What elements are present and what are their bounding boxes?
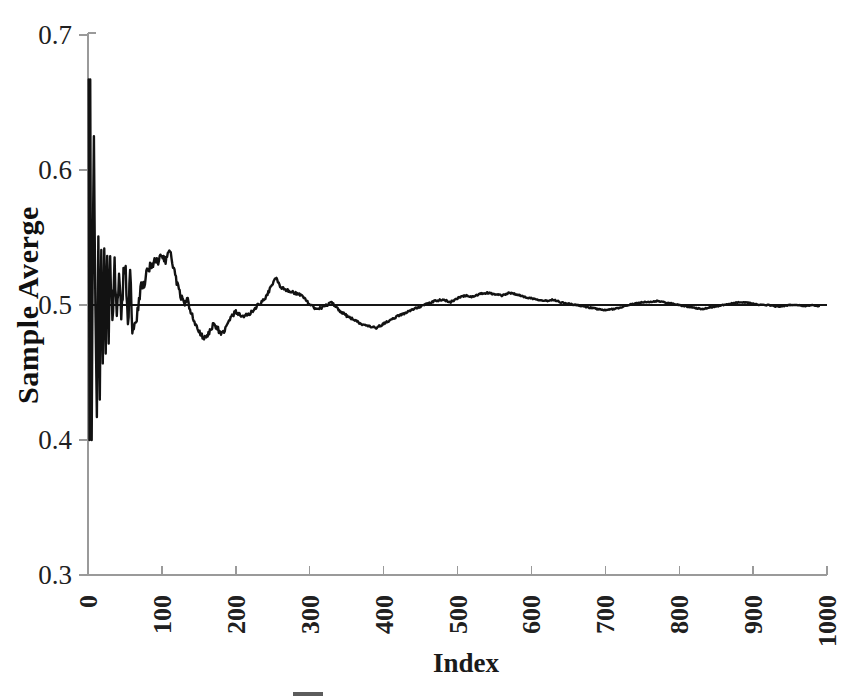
y-tick-label-0.4: 0.4 — [38, 425, 72, 455]
x-tick-label-100: 100 — [148, 595, 177, 634]
x-tick-label-300: 300 — [296, 595, 325, 634]
sample-average-series — [89, 80, 819, 440]
x-axis-title: Index — [433, 648, 500, 678]
x-tick-label-0: 0 — [74, 595, 103, 608]
y-tick-label-0.7: 0.7 — [38, 20, 72, 50]
x-tick-label-700: 700 — [591, 595, 620, 634]
y-tick-label-0.6: 0.6 — [38, 155, 72, 185]
x-tick-label-400: 400 — [370, 595, 399, 634]
x-tick-label-900: 900 — [739, 595, 768, 634]
x-tick-label-200: 200 — [222, 595, 251, 634]
x-tick-label-600: 600 — [517, 595, 546, 634]
legend-marker-artifact — [293, 692, 323, 696]
y-tick-label-0.3: 0.3 — [38, 560, 72, 590]
series-group — [89, 80, 819, 440]
x-tick-label-group: 01002003004005006007008009001000 — [74, 595, 842, 647]
x-tick-label-1000: 1000 — [813, 595, 842, 647]
sample-average-line-chart: 0.30.40.50.60.7 010020030040050060070080… — [0, 0, 851, 699]
x-tick-label-500: 500 — [444, 595, 473, 634]
x-tick-label-800: 800 — [665, 595, 694, 634]
chart-container: 0.30.40.50.60.7 010020030040050060070080… — [0, 0, 851, 699]
y-axis-title: Sample Averge — [11, 206, 44, 404]
